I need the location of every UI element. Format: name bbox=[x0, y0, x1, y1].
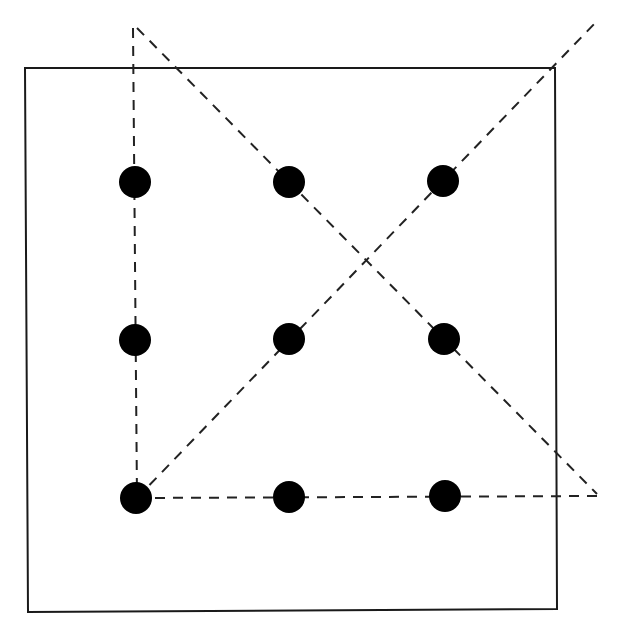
dashed-line-diagonal-down bbox=[137, 28, 597, 494]
dot-6 bbox=[428, 323, 460, 355]
dot-3 bbox=[427, 165, 459, 197]
dashed-line-vertical-left bbox=[133, 28, 137, 498]
dot-1 bbox=[119, 166, 151, 198]
dot-9 bbox=[429, 480, 461, 512]
dot-8 bbox=[273, 481, 305, 513]
dot-7 bbox=[120, 482, 152, 514]
dot-2 bbox=[273, 166, 305, 198]
dashed-line-horizontal-bottom bbox=[137, 496, 597, 498]
nine-dots-diagram bbox=[0, 0, 619, 638]
dot-5 bbox=[273, 323, 305, 355]
dot-grid bbox=[119, 165, 461, 514]
solution-lines bbox=[133, 20, 598, 498]
dot-4 bbox=[119, 324, 151, 356]
